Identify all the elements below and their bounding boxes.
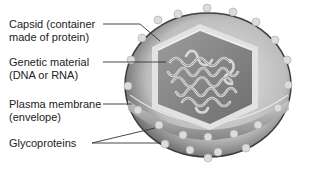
label-glycoproteins: Glycoproteins (9, 137, 76, 150)
label-capsid-line2: made of protein) (9, 31, 95, 44)
label-membrane-line1: Plasma membrane (9, 98, 101, 111)
label-glyco-line1: Glycoproteins (9, 137, 76, 150)
label-capsid: Capsid (container made of protein) (9, 18, 95, 43)
label-genetic-line1: Genetic material (9, 56, 89, 69)
label-genetic-line2: (DNA or RNA) (9, 69, 89, 82)
virus-diagram: Capsid (container made of protein) Genet… (0, 0, 310, 170)
label-genetic-material: Genetic material (DNA or RNA) (9, 56, 89, 81)
label-capsid-line1: Capsid (container (9, 18, 95, 31)
label-plasma-membrane: Plasma membrane (envelope) (9, 98, 101, 123)
label-membrane-line2: (envelope) (9, 111, 101, 124)
